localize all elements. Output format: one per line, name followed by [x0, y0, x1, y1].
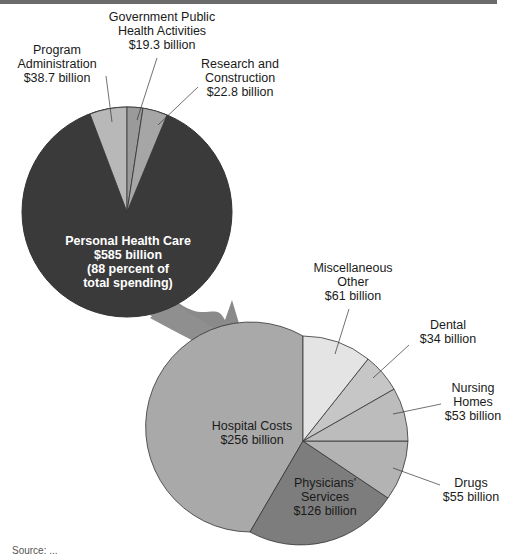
label-line: Drugs [436, 476, 506, 490]
label-line: Personal Health Care [62, 234, 194, 248]
label-line: $53 billion [440, 409, 506, 423]
label-line: $61 billion [305, 289, 401, 303]
label-miscellaneous-other: Miscellaneous Other $61 billion [305, 261, 401, 303]
label-personal-health-care: Personal Health Care $585 billion (88 pe… [62, 234, 194, 290]
label-line: $22.8 billion [195, 85, 285, 99]
label-hospital-costs: Hospital Costs $256 billion [206, 419, 298, 447]
label-line: Dental [413, 318, 483, 332]
label-government-public-health: Government Public Health Activities $19.… [100, 10, 224, 52]
label-nursing-homes: Nursing Homes $53 billion [440, 381, 506, 423]
label-line: Miscellaneous [305, 261, 401, 275]
label-line: $55 billion [436, 490, 506, 504]
label-line: Research and [195, 57, 285, 71]
label-physicians-services: Physicians' Services $126 billion [283, 476, 367, 518]
label-line: $34 billion [413, 332, 483, 346]
label-drugs: Drugs $55 billion [436, 476, 506, 504]
label-line: total spending) [62, 276, 194, 290]
label-line: (88 percent of [62, 262, 194, 276]
label-line: Nursing [440, 381, 506, 395]
label-research-construction: Research and Construction $22.8 billion [195, 57, 285, 99]
label-line: $19.3 billion [100, 38, 224, 52]
label-dental: Dental $34 billion [413, 318, 483, 346]
label-program-administration: Program Administration $38.7 billion [10, 43, 104, 85]
label-line: $256 billion [206, 433, 298, 447]
label-line: Other [305, 275, 401, 289]
label-line: Homes [440, 395, 506, 409]
label-line: Hospital Costs [206, 419, 298, 433]
label-line: $126 billion [283, 504, 367, 518]
label-line: Program [10, 43, 104, 57]
label-line: Construction [195, 71, 285, 85]
label-line: Administration [10, 57, 104, 71]
label-line: Government Public [100, 10, 224, 24]
label-line: $38.7 billion [10, 71, 104, 85]
label-line: $585 billion [62, 248, 194, 262]
label-line: Services [283, 490, 367, 504]
source-note: Source: ... [12, 545, 58, 556]
label-line: Physicians' [283, 476, 367, 490]
label-line: Health Activities [100, 24, 224, 38]
